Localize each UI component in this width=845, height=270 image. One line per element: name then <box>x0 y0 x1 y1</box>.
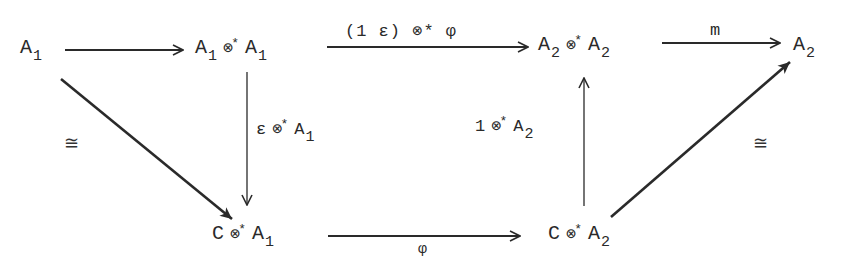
node-bl-right-sub: 1 <box>265 234 274 251</box>
node-bl-right-base: A <box>252 222 264 245</box>
tensor-icon: ⊗* <box>272 120 288 139</box>
tensor-icon: ⊗* <box>566 36 582 55</box>
node-tml-right-sub: 1 <box>258 48 267 65</box>
label-top-middle: (1 ε) ⊗* φ <box>345 20 457 44</box>
node-br-right-sub: 2 <box>601 234 610 251</box>
node-bottom-left: C⊗*A1 <box>212 222 274 248</box>
node-br-left: C <box>548 222 560 245</box>
tensor-icon: ⊗* <box>230 225 246 244</box>
commutative-diagram: A1 A1⊗*A1 (1 ε) ⊗* φ A2⊗*A2 m A2 ≅ ε⊗*A1… <box>0 0 845 270</box>
tensor-icon: ⊗* <box>566 225 582 244</box>
node-top-right-sub: 2 <box>806 45 815 62</box>
node-tml-left-base: A <box>195 36 207 59</box>
tensor-icon: ⊗* <box>223 39 239 58</box>
tensor-icon: ⊗* <box>491 117 507 136</box>
iso-label-right: ≅ <box>753 132 768 153</box>
node-tmr-left-sub: 2 <box>551 45 560 62</box>
arrow-left-diagonal <box>61 79 232 219</box>
label-left-vertical: ε⊗*A1 <box>256 118 314 143</box>
label-right-vertical: 1⊗*A2 <box>475 115 533 140</box>
node-top-right: A2 <box>793 33 815 59</box>
node-top-right-base: A <box>793 33 805 56</box>
node-tml-left-sub: 1 <box>208 48 217 65</box>
label-m: m <box>710 19 720 43</box>
node-top-left-base: A <box>20 36 32 59</box>
node-top-left-sub: 1 <box>33 48 42 65</box>
node-bottom-right: C⊗*A2 <box>548 222 610 248</box>
node-tmr-right-base: A <box>588 33 600 56</box>
node-tmr-right-sub: 2 <box>601 45 610 62</box>
node-tmr-left-base: A <box>538 33 550 56</box>
node-top-left: A1 <box>20 36 42 62</box>
node-br-right-base: A <box>588 222 600 245</box>
node-top-mid-left: A1⊗*A1 <box>195 36 267 62</box>
node-top-mid-right: A2⊗*A2 <box>538 33 610 59</box>
node-bl-left: C <box>212 222 224 245</box>
node-tml-right-base: A <box>245 36 257 59</box>
iso-label-left: ≅ <box>64 132 79 153</box>
label-phi: φ <box>418 238 427 262</box>
